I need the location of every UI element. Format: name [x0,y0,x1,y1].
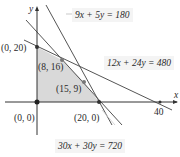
vertex-0-0 [35,100,40,105]
vertex-label-0-0: (0, 0) [14,113,35,124]
vertex-20-0 [97,100,101,104]
vertex-0-20 [35,45,39,49]
tick-40 [159,101,162,104]
constraint-label-12x-24y: 12x + 24y = 480 [104,56,174,70]
y-axis-arrow-icon [35,6,39,11]
vertex-15-9 [82,80,86,84]
vertex-label-20-0: (20, 0) [74,113,99,124]
x-axis-label: x [174,90,178,101]
vertex-label-15-9: (15, 9) [56,84,81,95]
x-tick-40: 40 [154,107,164,118]
feasible-region-graph [0,0,180,157]
vertex-label-0-20: (0, 20) [1,43,26,54]
constraint-label-30x-30y: 30x + 30y = 720 [55,139,125,153]
y-axis-label: y [29,4,33,15]
vertex-label-8-16: (8, 16) [38,62,63,73]
constraint-label-9x-5y: 9x + 5y = 180 [72,8,133,22]
